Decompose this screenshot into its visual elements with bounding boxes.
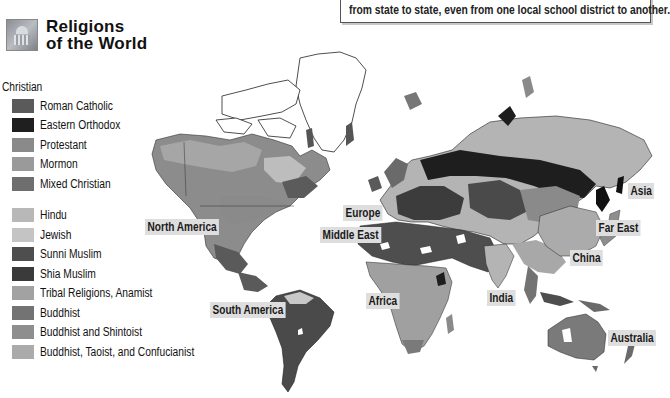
context-note-text: from state to state, even from one local… [349,3,670,17]
swatch-shia-muslim [12,267,34,281]
region-label-middle-east: Middle East [320,227,381,243]
context-note-box: from state to state, even from one local… [340,0,651,23]
legend-label: Shia Muslim [40,267,96,281]
swatch-protestant [12,138,34,152]
swatch-buddhist-shintoist [12,325,34,339]
legend-item-mormon: Mormon [12,155,228,175]
south-america-landmass [238,272,334,392]
legend-item-eastern-orthodox: Eastern Orthodox [12,116,228,136]
region-label-australia: Australia [608,330,656,346]
legend-label: Hindu [40,208,67,222]
legend-label: Jewish [40,228,71,242]
legend-item-shia-muslim: Shia Muslim [12,264,228,284]
title-line-1: Religions [46,18,147,35]
swatch-hindu [12,208,34,222]
swatch-buddhist-taoist-confucianist [12,345,34,359]
legend-item-protestant: Protestant [12,135,228,155]
legend-item-buddhist: Buddhist [12,303,228,323]
page-title: Religions of the World [46,18,147,52]
legend-label: Mixed Christian [40,177,111,191]
legend-label: Roman Catholic [40,99,113,113]
swatch-buddhist [12,306,34,320]
legend-label: Eastern Orthodox [40,118,120,132]
legend-item-buddhist-shintoist: Buddhist and Shintoist [12,323,228,343]
swatch-mixed-christian [12,177,34,191]
capitol-building-icon [6,19,38,51]
legend-label: Tribal Religions, Anamist [40,286,152,300]
swatch-jewish [12,228,34,242]
swatch-mormon [12,157,34,171]
title-line-2: of the World [46,35,147,52]
region-label-india: India [487,290,516,306]
region-label-africa: Africa [366,293,400,309]
arctic-islands [216,52,366,152]
region-label-north-america: North America [145,219,219,235]
legend-label: Buddhist [40,306,80,320]
legend-group-christian: Christian [2,80,194,94]
region-label-china: China [570,250,603,266]
legend-item-mixed-christian: Mixed Christian [12,174,228,194]
legend-label: Protestant [40,138,87,152]
region-label-far-east: Far East [596,220,641,236]
swatch-roman-catholic [12,99,34,113]
region-label-asia: Asia [628,183,654,199]
legend-item-sunni-muslim: Sunni Muslim [12,245,228,265]
legend-label: Sunni Muslim [40,247,102,261]
legend-label: Mormon [40,157,78,171]
swatch-eastern-orthodox [12,118,34,132]
legend-item-tribal-religions: Tribal Religions, Anamist [12,284,228,304]
legend-item-roman-catholic: Roman Catholic [12,96,228,116]
legend-label: Buddhist and Shintoist [40,325,142,339]
region-label-south-america: South America [210,302,286,318]
legend-label: Buddhist, Taoist, and Confucianist [40,345,194,359]
legend-item-buddhist-taoist-confucianist: Buddhist, Taoist, and Confucianist [12,342,228,362]
swatch-tribal-religions [12,286,34,300]
swatch-sunni-muslim [12,247,34,261]
map-title-block: Religions of the World [6,18,147,52]
region-label-europe: Europe [343,205,383,221]
